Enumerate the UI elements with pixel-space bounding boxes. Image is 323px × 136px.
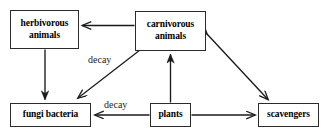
node-carnivorous-animals: carnivorous animals (135, 11, 206, 51)
node-scavengers: scavengers (258, 103, 319, 127)
edge-label-decay-carnivorous: decay (88, 54, 111, 65)
node-herbivorous-animals: herbivorous animals (10, 10, 79, 49)
node-carnivorous-animals-label: carnivorous animals (145, 19, 196, 42)
node-fungi-bacteria: fungi bacteria (10, 103, 91, 127)
food-web-diagram: herbivorous animals carnivorous animals … (0, 0, 323, 136)
edge-carnivorous-scavengers-bidirectional (207, 34, 268, 100)
edge-label-decay-plants: decay (104, 99, 127, 110)
node-herbivorous-animals-label: herbivorous animals (19, 18, 71, 41)
node-plants-label: plants (156, 109, 184, 121)
node-fungi-bacteria-label: fungi bacteria (21, 109, 80, 121)
node-scavengers-label: scavengers (265, 109, 312, 121)
node-plants: plants (150, 103, 191, 127)
